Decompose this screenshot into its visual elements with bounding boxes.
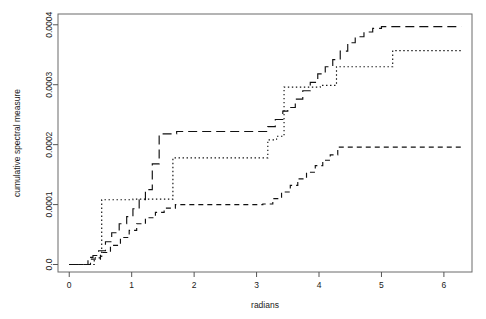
x-tick-label: 3 — [254, 280, 259, 290]
x-tick-label: 2 — [192, 280, 197, 290]
y-tick-label: 0.0 — [44, 258, 54, 270]
series-dotted — [69, 51, 461, 265]
series-long-dash — [69, 27, 461, 265]
x-tick-label: 5 — [379, 280, 384, 290]
y-axis-title: cumulative spectral measure — [12, 89, 22, 197]
y-tick-label: 0.0003 — [44, 71, 54, 97]
y-tick-label: 0.0004 — [44, 12, 54, 38]
plot-box — [58, 14, 472, 272]
x-tick-label: 4 — [317, 280, 322, 290]
chart-figure: 01234560.00.00010.00020.00030.0004radian… — [0, 0, 486, 319]
x-axis-title: radians — [251, 300, 279, 310]
x-tick-label: 0 — [67, 280, 72, 290]
x-tick-label: 1 — [129, 280, 134, 290]
x-tick-label: 6 — [442, 280, 447, 290]
y-tick-label: 0.0002 — [44, 131, 54, 157]
chart-canvas: 01234560.00.00010.00020.00030.0004radian… — [0, 0, 486, 319]
y-tick-label: 0.0001 — [44, 191, 54, 217]
series-short-dash — [69, 147, 461, 264]
